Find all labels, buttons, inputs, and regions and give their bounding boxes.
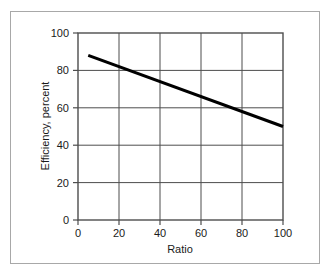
- y-axis-ticks: [73, 33, 78, 220]
- ytick-label-0: 0: [63, 214, 69, 226]
- xtick-label-100: 100: [274, 227, 292, 239]
- xtick-label-60: 60: [195, 227, 207, 239]
- efficiency-ratio-line-chart: 0 20 40 60 80 100 0 20 40 60 80 100 Rati…: [0, 0, 330, 275]
- y-axis-title: Efficiency, percent: [39, 82, 51, 171]
- xtick-label-40: 40: [154, 227, 166, 239]
- xtick-label-80: 80: [236, 227, 248, 239]
- y-axis-tick-labels: 0 20 40 60 80 100: [51, 27, 69, 226]
- xtick-label-20: 20: [113, 227, 125, 239]
- ytick-label-100: 100: [51, 27, 69, 39]
- figure: 0 20 40 60 80 100 0 20 40 60 80 100 Rati…: [0, 0, 330, 275]
- x-axis-title: Ratio: [167, 243, 193, 255]
- xtick-label-0: 0: [75, 227, 81, 239]
- ytick-label-80: 80: [57, 64, 69, 76]
- ytick-label-20: 20: [57, 177, 69, 189]
- plot-area-background: [78, 33, 283, 220]
- ytick-label-60: 60: [57, 102, 69, 114]
- x-axis-tick-labels: 0 20 40 60 80 100: [75, 227, 292, 239]
- ytick-label-40: 40: [57, 139, 69, 151]
- x-axis-ticks: [78, 220, 283, 225]
